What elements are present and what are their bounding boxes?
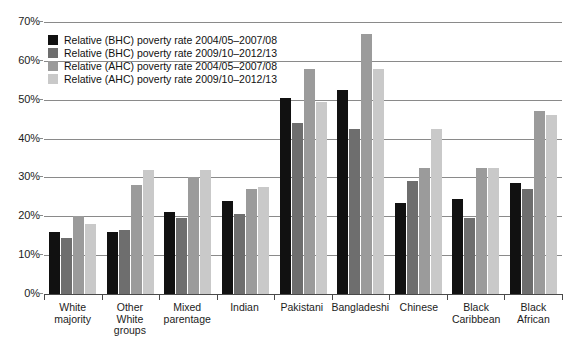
x-tick-mark bbox=[562, 294, 563, 300]
bar bbox=[61, 238, 72, 294]
y-tick-label: 0% bbox=[6, 288, 40, 299]
bar-group bbox=[505, 22, 563, 294]
bar bbox=[407, 181, 418, 294]
legend-swatch-icon bbox=[48, 48, 58, 58]
bar bbox=[534, 111, 545, 294]
bar bbox=[349, 129, 360, 294]
bar bbox=[164, 212, 175, 294]
bar bbox=[188, 177, 199, 294]
x-tick-mark bbox=[159, 294, 160, 300]
bar bbox=[258, 187, 269, 294]
y-tick-10: 10% bbox=[0, 249, 40, 261]
y-tick-60: 60% bbox=[0, 55, 40, 67]
x-tick-mark bbox=[504, 294, 505, 300]
x-tick-mark bbox=[274, 294, 275, 300]
bar bbox=[361, 34, 372, 294]
bar bbox=[488, 168, 499, 294]
y-tick-label: 50% bbox=[6, 94, 40, 105]
legend-item: Relative (AHC) poverty rate 2004/05–2007… bbox=[48, 60, 277, 72]
y-tick-label: 70% bbox=[6, 16, 40, 27]
x-axis-label: Black African bbox=[505, 302, 562, 337]
y-tick-mark bbox=[38, 176, 43, 177]
y-tick-label: 60% bbox=[6, 55, 40, 66]
bar-group bbox=[332, 22, 390, 294]
bar-group bbox=[389, 22, 447, 294]
y-tick-mark bbox=[38, 254, 43, 255]
bar-chart: 0%10%20%30%40%50%60%70% White majorityOt… bbox=[0, 0, 571, 353]
y-tick-mark bbox=[38, 99, 43, 100]
y-tick-50: 50% bbox=[0, 94, 40, 106]
y-tick-mark bbox=[38, 60, 43, 61]
bar bbox=[452, 199, 463, 294]
legend-label: Relative (AHC) poverty rate 2009/10–2012… bbox=[64, 74, 277, 85]
bar bbox=[131, 185, 142, 294]
legend-label: Relative (AHC) poverty rate 2004/05–2007… bbox=[64, 61, 277, 72]
legend-item: Relative (BHC) poverty rate 2004/05–2007… bbox=[48, 34, 277, 46]
y-tick-label: 10% bbox=[6, 249, 40, 260]
bar bbox=[395, 203, 406, 294]
x-tick-mark bbox=[44, 294, 45, 300]
x-axis-label: Indian bbox=[216, 302, 273, 337]
x-axis-label: Other White groups bbox=[101, 302, 158, 337]
bar bbox=[522, 189, 533, 294]
bar-group bbox=[274, 22, 332, 294]
bar bbox=[73, 216, 84, 294]
x-axis-label: Bangladeshi bbox=[330, 302, 390, 337]
bar bbox=[431, 129, 442, 294]
bar bbox=[316, 102, 327, 294]
x-axis-label: White majority bbox=[44, 302, 101, 337]
y-axis: 0%10%20%30%40%50%60%70% bbox=[0, 22, 40, 294]
bar bbox=[292, 123, 303, 294]
y-tick-mark bbox=[38, 215, 43, 216]
chart-legend: Relative (BHC) poverty rate 2004/05–2007… bbox=[48, 34, 277, 85]
bar bbox=[119, 230, 130, 294]
x-axis-label: Black Caribbean bbox=[447, 302, 504, 337]
bar-group bbox=[447, 22, 505, 294]
bar bbox=[280, 98, 291, 294]
x-axis-label: Pakistani bbox=[273, 302, 330, 337]
x-axis-label: Chinese bbox=[390, 302, 447, 337]
bar bbox=[107, 232, 118, 294]
y-tick-mark bbox=[38, 21, 43, 22]
bar bbox=[200, 170, 211, 294]
bar bbox=[304, 69, 315, 294]
x-axis-labels: White majorityOther White groupsMixed pa… bbox=[44, 302, 562, 337]
y-tick-label: 30% bbox=[6, 171, 40, 182]
bar bbox=[510, 183, 521, 294]
legend-swatch-icon bbox=[48, 74, 58, 84]
bar bbox=[176, 218, 187, 294]
x-tick-mark bbox=[447, 294, 448, 300]
y-tick-label: 40% bbox=[6, 133, 40, 144]
bar bbox=[143, 170, 154, 294]
legend-item: Relative (AHC) poverty rate 2009/10–2012… bbox=[48, 73, 277, 85]
y-tick-40: 40% bbox=[0, 133, 40, 145]
bar bbox=[222, 201, 233, 294]
bar bbox=[546, 115, 557, 294]
y-tick-0: 0% bbox=[0, 288, 40, 300]
bar bbox=[476, 168, 487, 294]
x-axis-label: Mixed parentage bbox=[159, 302, 216, 337]
y-tick-70: 70% bbox=[0, 16, 40, 28]
y-tick-mark bbox=[38, 138, 43, 139]
y-tick-20: 20% bbox=[0, 210, 40, 222]
y-tick-30: 30% bbox=[0, 171, 40, 183]
legend-item: Relative (BHC) poverty rate 2009/10–2012… bbox=[48, 47, 277, 59]
legend-label: Relative (BHC) poverty rate 2009/10–2012… bbox=[64, 48, 277, 59]
x-tick-mark bbox=[389, 294, 390, 300]
x-tick-mark bbox=[217, 294, 218, 300]
bar bbox=[373, 69, 384, 294]
bar bbox=[49, 232, 60, 294]
legend-label: Relative (BHC) poverty rate 2004/05–2007… bbox=[64, 35, 277, 46]
bar bbox=[464, 218, 475, 294]
bar bbox=[419, 168, 430, 294]
x-tick-mark bbox=[332, 294, 333, 300]
bar bbox=[85, 224, 96, 294]
y-tick-label: 20% bbox=[6, 210, 40, 221]
legend-swatch-icon bbox=[48, 35, 58, 45]
x-tick-mark bbox=[102, 294, 103, 300]
legend-swatch-icon bbox=[48, 61, 58, 71]
x-axis-line bbox=[44, 294, 562, 295]
y-tick-mark bbox=[38, 293, 43, 294]
bar bbox=[337, 90, 348, 294]
bar bbox=[246, 189, 257, 294]
